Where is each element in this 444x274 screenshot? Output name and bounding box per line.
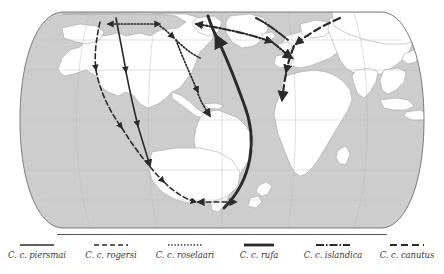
legend-item-roselaari[interactable]: C. c. roselaari: [148, 240, 222, 260]
migration-map-figure: C. c. piersmai C. c. rogersi C. c. rosel…: [0, 0, 444, 274]
legend-line-islandica: [310, 240, 356, 249]
legend-item-islandica[interactable]: C. c. islandica: [296, 240, 370, 260]
legend-line-roselaari: [162, 240, 208, 249]
legend-line-canutus: [384, 240, 430, 249]
map-body: [0, 0, 444, 234]
legend-label-canutus: C. c. canutus: [380, 250, 435, 260]
world-map-svg: [0, 0, 444, 234]
legend-items: C. c. piersmai C. c. rogersi C. c. rosel…: [0, 240, 444, 260]
map-panel: [0, 0, 444, 234]
legend-line-rogersi: [88, 240, 134, 249]
legend-line-piersmai: [14, 240, 60, 249]
legend-item-rufa[interactable]: C. c. rufa: [222, 240, 296, 260]
legend-divider: [57, 234, 387, 235]
legend-item-canutus[interactable]: C. c. canutus: [370, 240, 444, 260]
legend-label-roselaari: C. c. roselaari: [156, 250, 214, 260]
legend: C. c. piersmai C. c. rogersi C. c. rosel…: [0, 234, 444, 274]
legend-label-rufa: C. c. rufa: [240, 250, 279, 260]
legend-item-piersmai[interactable]: C. c. piersmai: [0, 240, 74, 260]
legend-line-rufa: [236, 240, 282, 249]
legend-label-rogersi: C. c. rogersi: [85, 250, 136, 260]
legend-label-islandica: C. c. islandica: [304, 250, 363, 260]
legend-label-piersmai: C. c. piersmai: [8, 250, 66, 260]
legend-item-rogersi[interactable]: C. c. rogersi: [74, 240, 148, 260]
